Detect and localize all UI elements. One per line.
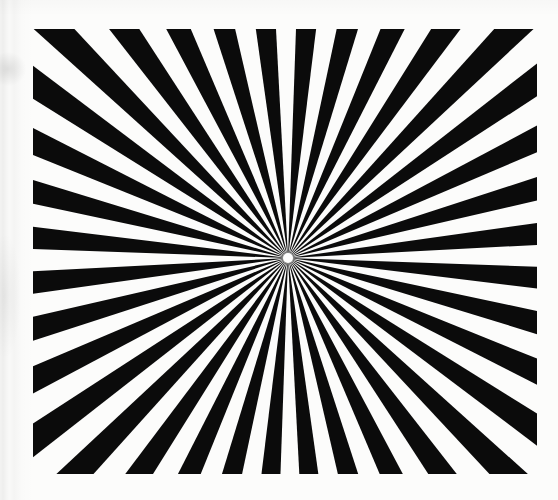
figure-root (0, 0, 558, 500)
sunburst-rays (33, 29, 537, 474)
